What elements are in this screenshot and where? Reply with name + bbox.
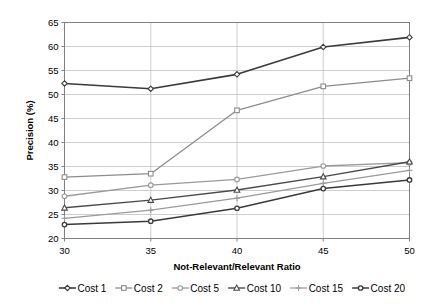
data-point-marker-circle bbox=[148, 183, 153, 188]
y-axis-tick-label: 25 bbox=[48, 209, 59, 220]
x-axis-tick-label: 40 bbox=[232, 245, 243, 256]
data-point-marker-circle-filled bbox=[62, 222, 66, 226]
data-point-marker-square bbox=[62, 175, 67, 180]
data-point-marker-diamond bbox=[407, 35, 412, 40]
data-point-marker-triangle bbox=[407, 159, 413, 164]
data-point-marker-circle bbox=[62, 194, 67, 199]
data-point-marker-triangle bbox=[234, 187, 240, 192]
legend-item-cost-1[interactable]: Cost 1 bbox=[59, 283, 107, 294]
data-point-marker-plus bbox=[148, 207, 154, 213]
y-axis-tick-label: 45 bbox=[48, 113, 59, 124]
legend-label: Cost 15 bbox=[309, 283, 344, 294]
y-axis-tick-label: 65 bbox=[48, 17, 59, 28]
x-axis-title: Not-Relevant/Relevant Ratio bbox=[173, 261, 300, 272]
chart-canvas: 20253035404550556065 3035404550 Not-Rele… bbox=[0, 0, 431, 308]
data-point-marker-circle bbox=[321, 164, 326, 169]
legend-item-cost-2[interactable]: Cost 2 bbox=[115, 283, 163, 294]
data-point-marker-diamond bbox=[65, 285, 70, 290]
y-axis-tick-label: 55 bbox=[48, 65, 59, 76]
data-point-marker-square bbox=[321, 84, 326, 89]
y-axis-tick-label: 60 bbox=[48, 41, 59, 52]
y-axis-tick-label: 40 bbox=[48, 137, 59, 148]
data-point-marker-triangle bbox=[148, 197, 154, 202]
data-point-marker-plus bbox=[320, 180, 326, 186]
data-point-marker-circle bbox=[235, 177, 240, 182]
data-point-marker-square bbox=[235, 108, 240, 113]
chart-legend[interactable]: Cost 1Cost 2Cost 5Cost 10Cost 15Cost 20 bbox=[59, 283, 406, 294]
data-point-marker-triangle bbox=[62, 205, 68, 210]
y-axis-tick-label: 20 bbox=[48, 233, 59, 244]
data-point-marker-triangle bbox=[320, 174, 326, 179]
data-point-marker-plus bbox=[62, 215, 68, 221]
data-point-marker-diamond bbox=[148, 86, 153, 91]
legend-item-cost-15[interactable]: Cost 15 bbox=[290, 283, 343, 294]
data-point-marker-square bbox=[122, 286, 127, 291]
data-point-marker-plus bbox=[296, 285, 302, 291]
data-point-marker-circle-filled bbox=[149, 219, 153, 223]
data-point-marker-square bbox=[148, 171, 153, 176]
x-axis-tick-label: 30 bbox=[59, 245, 70, 256]
y-axis-tick-label: 35 bbox=[48, 161, 59, 172]
y-axis-tick-label: 30 bbox=[48, 185, 59, 196]
data-point-marker-diamond bbox=[321, 44, 326, 49]
legend-item-cost-5[interactable]: Cost 5 bbox=[172, 283, 220, 294]
legend-label: Cost 1 bbox=[77, 283, 106, 294]
x-axis-tick-label: 45 bbox=[318, 245, 329, 256]
x-axis-tick-label: 50 bbox=[404, 245, 415, 256]
data-point-marker-triangle bbox=[234, 285, 240, 290]
legend-item-cost-10[interactable]: Cost 10 bbox=[228, 283, 281, 294]
data-point-marker-plus bbox=[407, 167, 413, 173]
data-point-marker-circle-filled bbox=[321, 186, 325, 190]
data-point-marker-circle-filled bbox=[358, 286, 362, 290]
data-point-marker-diamond bbox=[234, 72, 239, 77]
legend-item-cost-20[interactable]: Cost 20 bbox=[352, 283, 405, 294]
legend-label: Cost 10 bbox=[247, 283, 282, 294]
precision-vs-ratio-chart: 20253035404550556065 3035404550 Not-Rele… bbox=[0, 0, 431, 308]
y-axis-tick-labels: 20253035404550556065 bbox=[48, 17, 59, 244]
data-point-marker-circle bbox=[178, 286, 183, 291]
data-point-marker-plus bbox=[234, 195, 240, 201]
data-point-marker-circle-filled bbox=[407, 178, 411, 182]
x-axis-tick-label: 35 bbox=[145, 245, 156, 256]
data-point-marker-circle-filled bbox=[235, 206, 239, 210]
legend-label: Cost 2 bbox=[134, 283, 163, 294]
data-point-marker-square bbox=[407, 76, 412, 81]
y-axis-tick-label: 50 bbox=[48, 89, 59, 100]
legend-label: Cost 5 bbox=[190, 283, 219, 294]
data-point-marker-diamond bbox=[62, 81, 67, 86]
x-axis-tick-labels: 3035404550 bbox=[59, 245, 415, 256]
y-axis-title: Precision (%) bbox=[24, 100, 35, 160]
legend-label: Cost 20 bbox=[371, 283, 406, 294]
